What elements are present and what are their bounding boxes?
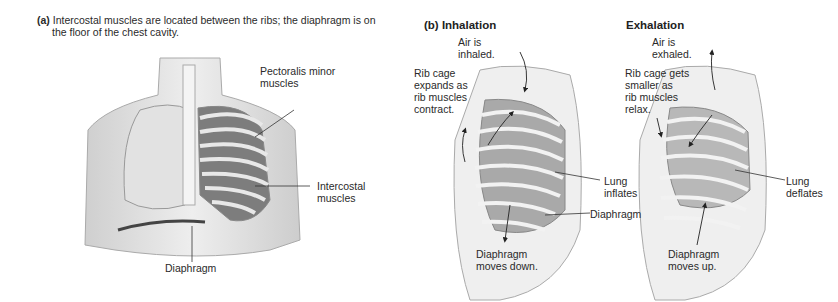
label-diaphragm-moves-up: Diaphragm moves up. [668,248,719,272]
label-diaphragm-b: Diaphragm [590,208,641,220]
label-diaphragm-a: Diaphragm [165,262,216,274]
panel-a-tag: (a) [37,14,50,26]
exhalation-title: Exhalation [626,19,684,31]
panel-a-caption-line2: the floor of the chest cavity. [37,26,179,38]
inhalation-title: (b) Inhalation [424,19,496,31]
panel-a-caption: (a) Intercostal muscles are located betw… [37,14,376,38]
label-intercostal-muscles: Intercostal muscles [317,180,365,204]
label-rib-cage-expands: Rib cage expands as rib muscles contract… [414,67,468,115]
label-rib-cage-smaller: Rib cage gets smaller as rib muscles rel… [625,67,689,115]
label-air-exhaled: Air is exhaled. [652,36,692,60]
label-lung-inflates: Lung inflates [604,175,637,199]
panel-a-caption-line1: Intercostal muscles are located between … [53,14,376,26]
label-diaphragm-moves-down: Diaphragm moves down. [476,248,538,272]
label-lung-deflates: Lung deflates [786,175,823,199]
label-pectoralis-minor: Pectoralis minor muscles [260,65,335,89]
label-air-inhaled: Air is inhaled. [458,36,495,60]
